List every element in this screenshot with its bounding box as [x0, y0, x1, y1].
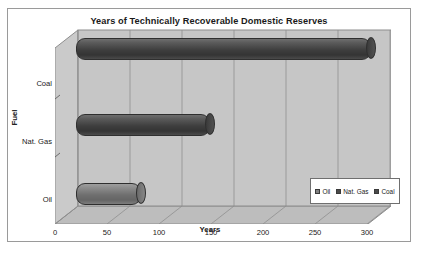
yaxis-title: Fuel	[10, 109, 19, 125]
legend-swatch-oil	[315, 189, 320, 194]
ytick-label-coal: Coal	[12, 79, 52, 88]
ytick-label-oil: Oil	[12, 195, 52, 204]
chart-title: Years of Technically Recoverable Domesti…	[8, 16, 410, 26]
ytick-label-nat-gas: Nat. Gas	[12, 137, 52, 146]
legend-item-coal: Coal	[374, 188, 394, 195]
legend-swatch-nat-gas	[336, 189, 341, 194]
chart-legend: Oil Nat. Gas Coal	[310, 178, 400, 204]
legend-swatch-coal	[374, 189, 379, 194]
xaxis-title: Years	[8, 225, 412, 234]
chart-frame: Years of Technically Recoverable Domesti…	[7, 8, 411, 242]
legend-label-coal: Coal	[381, 188, 394, 195]
legend-label-oil: Oil	[322, 188, 330, 195]
legend-item-nat-gas: Nat. Gas	[336, 188, 368, 195]
legend-item-oil: Oil	[315, 188, 330, 195]
legend-label-nat-gas: Nat. Gas	[343, 188, 368, 195]
